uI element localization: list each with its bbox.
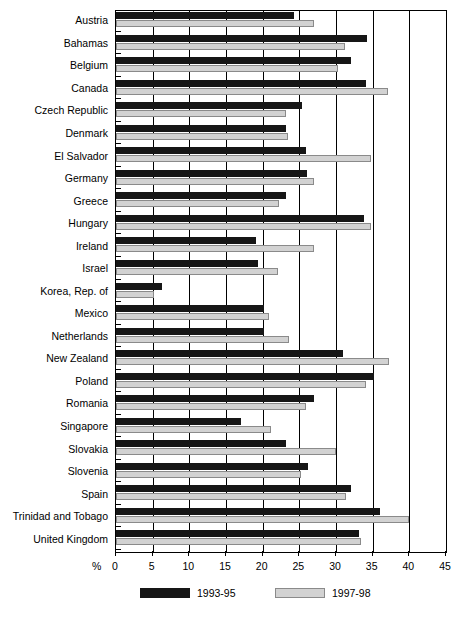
bar-1993-95 xyxy=(116,350,343,357)
legend-swatch xyxy=(140,588,190,598)
category-tick xyxy=(116,121,121,122)
bar-1993-95 xyxy=(116,260,258,267)
bar-1993-95 xyxy=(116,215,364,222)
bar-1993-95 xyxy=(116,80,366,87)
bar-group xyxy=(116,236,446,259)
bar-group xyxy=(116,101,446,124)
bar-1997-98 xyxy=(116,245,314,252)
category-tick xyxy=(116,369,121,370)
bar-1997-98 xyxy=(116,381,366,388)
bar-1993-95 xyxy=(116,508,380,515)
bar-1993-95 xyxy=(116,305,264,312)
bar-1993-95 xyxy=(116,147,306,154)
category-tick xyxy=(116,53,121,54)
bar-1997-98 xyxy=(116,493,346,500)
category-label: Belgium xyxy=(0,60,108,71)
category-tick xyxy=(116,324,121,325)
category-tick xyxy=(116,188,121,189)
bar-group xyxy=(116,327,446,350)
x-tick-label-0: 0 xyxy=(100,560,130,572)
bar-1997-98 xyxy=(116,538,361,545)
bar-1997-98 xyxy=(116,43,345,50)
category-label: Canada xyxy=(0,83,108,94)
category-label: Slovakia xyxy=(0,444,108,455)
bar-1997-98 xyxy=(116,336,289,343)
bar-group xyxy=(116,79,446,102)
x-tick-25 xyxy=(298,551,299,556)
category-label: Mexico xyxy=(0,308,108,319)
category-label: Trinidad and Tobago xyxy=(0,511,108,522)
x-tick-40 xyxy=(408,551,409,556)
category-label: Spain xyxy=(0,489,108,500)
bar-1997-98 xyxy=(116,110,286,117)
bar-1993-95 xyxy=(116,57,351,64)
category-tick xyxy=(116,233,121,234)
bar-1997-98 xyxy=(116,471,301,478)
category-tick xyxy=(116,98,121,99)
bar-group xyxy=(116,34,446,57)
bar-1997-98 xyxy=(116,313,269,320)
chart-container: AustriaBahamasBelgiumCanadaCzech Republi… xyxy=(0,0,465,619)
bar-1993-95 xyxy=(116,463,308,470)
bar-group xyxy=(116,529,446,552)
bar-1997-98 xyxy=(116,358,389,365)
category-label: Israel xyxy=(0,263,108,274)
bar-group xyxy=(116,124,446,147)
legend-label: 1997-98 xyxy=(332,586,371,600)
x-tick-label-15: 15 xyxy=(210,560,240,572)
x-tick-label-10: 10 xyxy=(173,560,203,572)
bar-group xyxy=(116,462,446,485)
bar-group xyxy=(116,56,446,79)
bar-group xyxy=(116,439,446,462)
bar-1993-95 xyxy=(116,12,294,19)
bar-1993-95 xyxy=(116,283,162,290)
category-tick xyxy=(116,481,121,482)
category-tick xyxy=(116,301,121,302)
bar-group xyxy=(116,484,446,507)
legend-label: 1993-95 xyxy=(197,586,236,600)
bar-group xyxy=(116,394,446,417)
category-label: United Kingdom xyxy=(0,534,108,545)
bar-group xyxy=(116,349,446,372)
x-tick-0 xyxy=(115,551,116,556)
x-tick-label-5: 5 xyxy=(137,560,167,572)
category-tick xyxy=(116,346,121,347)
x-tick-15 xyxy=(225,551,226,556)
x-axis-unit-label: % xyxy=(92,560,101,572)
bar-1997-98 xyxy=(116,223,371,230)
category-tick xyxy=(116,549,121,550)
bar-1997-98 xyxy=(116,20,314,27)
category-label: New Zealand xyxy=(0,353,108,364)
x-tick-10 xyxy=(188,551,189,556)
bar-1993-95 xyxy=(116,237,256,244)
legend-swatch xyxy=(275,588,325,598)
bar-group xyxy=(116,417,446,440)
category-label: Romania xyxy=(0,398,108,409)
bar-1993-95 xyxy=(116,485,351,492)
bar-1993-95 xyxy=(116,530,359,537)
category-label: Hungary xyxy=(0,218,108,229)
category-label: Bahamas xyxy=(0,38,108,49)
bar-1997-98 xyxy=(116,65,338,72)
category-label: Denmark xyxy=(0,128,108,139)
category-tick xyxy=(116,279,121,280)
bar-1993-95 xyxy=(116,125,286,132)
category-tick xyxy=(116,436,121,437)
bar-group xyxy=(116,191,446,214)
bar-1993-95 xyxy=(116,170,307,177)
bar-1997-98 xyxy=(116,403,306,410)
bar-1997-98 xyxy=(116,448,336,455)
bar-1997-98 xyxy=(116,200,279,207)
category-label: El Salvador xyxy=(0,151,108,162)
category-tick xyxy=(116,256,121,257)
bar-group xyxy=(116,507,446,530)
category-tick xyxy=(116,391,121,392)
bar-1993-95 xyxy=(116,328,264,335)
x-tick-45 xyxy=(445,551,446,556)
bar-1997-98 xyxy=(116,516,409,523)
bar-group xyxy=(116,169,446,192)
category-label: Singapore xyxy=(0,421,108,432)
bar-1993-95 xyxy=(116,373,374,380)
bar-group xyxy=(116,304,446,327)
category-tick xyxy=(116,143,121,144)
